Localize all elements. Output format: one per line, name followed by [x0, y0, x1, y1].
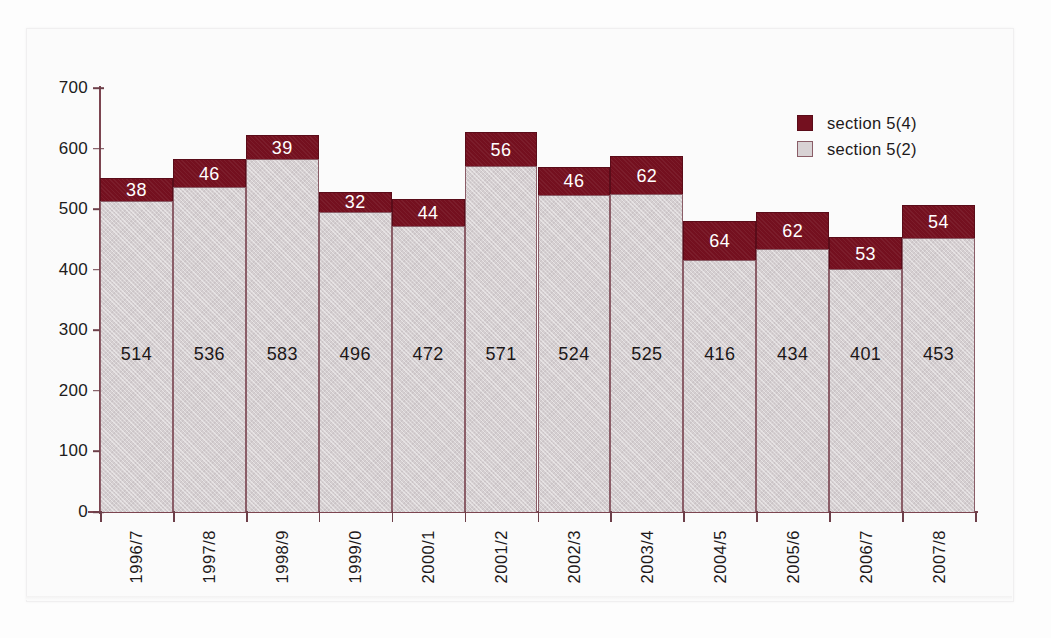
- chart-legend: section 5(4)section 5(2): [797, 110, 917, 162]
- bar-segment-section-5-2[interactable]: 583: [246, 159, 319, 512]
- bar-value-label-section-5-2: 536: [174, 344, 245, 365]
- x-axis-category-label: 2007/8: [930, 530, 949, 583]
- bar-value-label-section-5-2: 434: [757, 344, 828, 365]
- bar-value-label-section-5-4: 46: [564, 172, 585, 190]
- x-axis-category-label: 2003/4: [638, 530, 657, 583]
- y-tick-label: 100: [59, 441, 88, 461]
- x-tick-mark: [319, 511, 321, 522]
- bar-segment-section-5-4[interactable]: 62: [756, 212, 829, 250]
- y-tick-label: 700: [59, 78, 88, 98]
- bar-value-label-section-5-2: 583: [247, 344, 318, 365]
- bar-value-label-section-5-4: 53: [855, 245, 876, 263]
- bar-segment-section-5-2[interactable]: 434: [756, 249, 829, 512]
- stacked-bar-chart: 0100200300400500600700 51438536465833949…: [0, 0, 1051, 638]
- bar-value-label-section-5-2: 416: [684, 344, 755, 365]
- bar-value-label-section-5-2: 514: [101, 344, 172, 365]
- bar-segment-section-5-2[interactable]: 472: [392, 226, 465, 512]
- bar-segment-section-5-2[interactable]: 524: [538, 195, 611, 512]
- bar-segment-section-5-4[interactable]: 53: [829, 237, 902, 269]
- bar-segment-section-5-4[interactable]: 32: [319, 192, 392, 211]
- x-tick-mark: [538, 511, 540, 522]
- x-tick-mark: [975, 511, 977, 522]
- y-tick-label: 500: [59, 199, 88, 219]
- x-axis-category-label: 2000/1: [419, 530, 438, 583]
- bar-segment-section-5-4[interactable]: 56: [465, 132, 538, 166]
- bar-value-label-section-5-4: 62: [636, 167, 657, 185]
- bar-value-label-section-5-4: 54: [928, 213, 949, 231]
- x-axis-category-label: 1997/8: [200, 530, 219, 583]
- x-axis-category-label: 2005/6: [784, 530, 803, 583]
- y-tick-label: 600: [59, 139, 88, 159]
- bar-segment-section-5-4[interactable]: 39: [246, 135, 319, 159]
- bar-segment-section-5-4[interactable]: 54: [902, 205, 975, 238]
- x-axis-category-label: 1996/7: [127, 530, 146, 583]
- x-tick-mark: [610, 511, 612, 522]
- bar-value-label-section-5-4: 38: [126, 181, 147, 199]
- bar-segment-section-5-2[interactable]: 453: [902, 238, 975, 512]
- bar-value-label-section-5-4: 39: [272, 139, 293, 157]
- x-tick-mark: [173, 511, 175, 522]
- x-tick-mark: [902, 511, 904, 522]
- x-axis-category-label: 1999/0: [346, 530, 365, 583]
- bar-value-label-section-5-4: 62: [782, 222, 803, 240]
- bar-segment-section-5-2[interactable]: 401: [829, 269, 902, 512]
- bar-segment-section-5-4[interactable]: 44: [392, 199, 465, 226]
- page-root: 0100200300400500600700 51438536465833949…: [0, 0, 1051, 638]
- bar-segment-section-5-4[interactable]: 46: [173, 159, 246, 187]
- bar-segment-section-5-4[interactable]: 62: [610, 156, 683, 194]
- bar-value-label-section-5-4: 64: [709, 232, 730, 250]
- bar-segment-section-5-2[interactable]: 496: [319, 212, 392, 512]
- x-axis-category-label: 2004/5: [711, 530, 730, 583]
- bar-value-label-section-5-4: 44: [418, 204, 439, 222]
- legend-item[interactable]: section 5(2): [797, 136, 917, 162]
- bar-value-label-section-5-2: 571: [466, 344, 537, 365]
- bar-value-label-section-5-2: 496: [320, 344, 391, 365]
- legend-label: section 5(4): [827, 114, 917, 133]
- y-tick-label: 300: [59, 320, 88, 340]
- bar-value-label-section-5-2: 472: [393, 344, 464, 365]
- bar-segment-section-5-2[interactable]: 571: [465, 166, 538, 512]
- bar-segment-section-5-4[interactable]: 46: [538, 167, 611, 195]
- bar-value-label-section-5-4: 56: [491, 141, 512, 159]
- bar-segment-section-5-2[interactable]: 536: [173, 187, 246, 512]
- bar-segment-section-5-2[interactable]: 525: [610, 194, 683, 512]
- bar-segment-section-5-2[interactable]: 514: [100, 201, 173, 512]
- x-tick-mark: [683, 511, 685, 522]
- legend-swatch-section-5-4: [797, 115, 813, 131]
- bar-value-label-section-5-4: 32: [345, 193, 366, 211]
- bar-value-label-section-5-2: 401: [830, 344, 901, 365]
- x-tick-mark: [100, 511, 102, 522]
- bar-segment-section-5-2[interactable]: 416: [683, 260, 756, 512]
- bar-value-label-section-5-4: 46: [199, 165, 220, 183]
- x-tick-mark: [246, 511, 248, 522]
- y-tick-label: 0: [78, 502, 88, 522]
- x-tick-mark: [829, 511, 831, 522]
- bar-segment-section-5-4[interactable]: 38: [100, 178, 173, 201]
- x-axis-category-label: 2001/2: [492, 530, 511, 583]
- x-axis-category-label: 2002/3: [565, 530, 584, 583]
- y-tick-label: 200: [59, 381, 88, 401]
- x-tick-mark: [392, 511, 394, 522]
- legend-label: section 5(2): [827, 140, 917, 159]
- x-axis-category-label: 2006/7: [857, 530, 876, 583]
- legend-item[interactable]: section 5(4): [797, 110, 917, 136]
- x-tick-mark: [465, 511, 467, 522]
- legend-swatch-section-5-2: [797, 141, 813, 157]
- y-tick-label: 400: [59, 260, 88, 280]
- bar-value-label-section-5-2: 453: [903, 344, 974, 365]
- bar-value-label-section-5-2: 524: [539, 344, 610, 365]
- bar-segment-section-5-4[interactable]: 64: [683, 221, 756, 260]
- bar-value-label-section-5-2: 525: [611, 344, 682, 365]
- x-axis-category-label: 1998/9: [273, 530, 292, 583]
- x-tick-mark: [756, 511, 758, 522]
